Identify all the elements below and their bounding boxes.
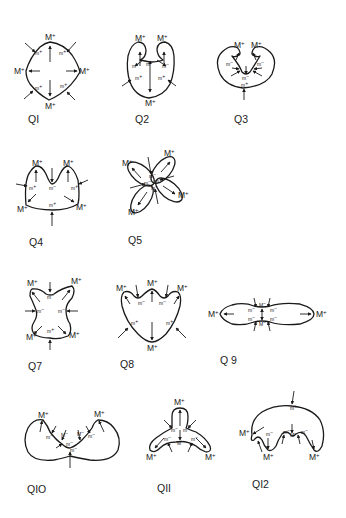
panel-q10: M+ M+ M− M− m− m− m− m− QIO (25, 409, 119, 495)
min-label: m− (266, 429, 273, 437)
max-label: M+ (45, 101, 56, 111)
min-label: m+ (35, 83, 42, 91)
min-label: m− (151, 183, 158, 191)
min-label: m+ (135, 73, 142, 81)
min-label: m− (159, 298, 166, 306)
min-label: m+ (49, 200, 56, 208)
max-label: M+ (208, 309, 219, 319)
min-label: m+ (47, 326, 54, 334)
max-label: M+ (128, 207, 139, 217)
max-label-small: M− (61, 430, 68, 438)
min-label: m+ (59, 48, 66, 56)
panel-q4: M+ M+ M+ M+ m− m+ m+ m+ Q4 (16, 158, 88, 248)
min-label: m+ (35, 48, 42, 56)
min-label: m− (257, 59, 264, 67)
min-label: m− (226, 59, 233, 67)
max-label: M+ (146, 452, 157, 462)
max-label: M+ (94, 409, 105, 419)
max-label: M+ (32, 158, 43, 168)
figure-canvas: M+ M+ M+ M+ m+ m+ m+ m+ QI M+ M+ M+ m− m… (0, 0, 346, 518)
max-label: M+ (26, 332, 37, 342)
min-label: m− (46, 432, 53, 440)
caption-q3: Q3 (234, 113, 248, 125)
min-label: m− (171, 425, 178, 433)
max-label: M+ (309, 452, 320, 462)
caption-q4: Q4 (29, 236, 43, 248)
panel-q11: M+ M+ M+ m− m− m− m− M− QII (146, 397, 216, 494)
min-label: m+ (290, 403, 297, 411)
max-label: M+ (63, 158, 74, 168)
min-label: m− (270, 305, 277, 313)
max-label-small: M− (259, 319, 266, 327)
max-label: M+ (178, 190, 189, 200)
caption-q7: Q7 (28, 360, 42, 372)
min-label: m− (37, 306, 44, 314)
min-label: m+ (71, 183, 78, 191)
max-label: M+ (79, 66, 90, 76)
max-label: M+ (71, 276, 82, 286)
min-label: m+ (60, 81, 67, 89)
min-label: m− (49, 183, 56, 191)
shape-outline (127, 42, 174, 98)
min-label: m− (191, 434, 198, 442)
max-label: M+ (38, 410, 49, 420)
caption-q10: QIO (27, 483, 46, 495)
max-label: M+ (263, 452, 274, 462)
panel-q7: M+ M+ M+ M+ m− m− m− m+ Q7 (25, 276, 82, 372)
min-label: m− (70, 445, 77, 453)
min-label: m+ (241, 80, 248, 88)
max-label: M+ (147, 343, 158, 353)
min-label: m− (164, 434, 171, 442)
max-label: M+ (234, 40, 245, 50)
panel-q5: M+ M+ M+ M+ m− m− m− m− Q5 (122, 148, 189, 246)
min-label: m+ (131, 318, 138, 326)
panel-q2: M+ M+ M+ m− m− m− m+ m+ Q2 (122, 33, 176, 125)
shape-outline (121, 289, 180, 342)
min-label: m− (132, 61, 139, 69)
panel-q8: M+ M+ M+ M+ m− m− m+ m+ Q8 (116, 278, 188, 370)
min-label: m− (248, 314, 255, 322)
max-label: M+ (27, 278, 38, 288)
min-label: m− (248, 305, 255, 313)
min-label: m− (58, 306, 65, 314)
min-label: m+ (29, 183, 36, 191)
max-label: M+ (122, 158, 133, 168)
max-label-small: M− (290, 430, 297, 438)
max-label: M+ (157, 33, 168, 43)
max-label: M+ (76, 202, 87, 212)
caption-q5: Q5 (128, 234, 142, 246)
caption-q2: Q2 (135, 113, 149, 125)
max-label: M+ (251, 40, 262, 50)
max-label: M+ (135, 33, 146, 43)
min-label: m− (138, 298, 145, 306)
max-label: M+ (174, 397, 185, 407)
min-label: m− (183, 425, 190, 433)
caption-q9: Q 9 (220, 354, 237, 366)
max-label: M+ (14, 66, 25, 76)
min-label: m− (66, 439, 73, 447)
max-label: M+ (177, 283, 188, 293)
max-label: M+ (147, 278, 158, 288)
max-label-small: M− (77, 429, 84, 437)
max-label: M+ (17, 204, 28, 214)
panel-q3: M+ M+ m− m− m− m+ Q3 (217, 40, 274, 125)
min-label: m− (270, 314, 277, 322)
max-label: M+ (205, 452, 216, 462)
min-label: m− (146, 59, 153, 67)
caption-q8: Q8 (120, 358, 134, 370)
max-label: M+ (45, 32, 56, 42)
max-label: M+ (316, 309, 327, 319)
max-label: M+ (239, 428, 250, 438)
panel-q9: M+ M+ M− M− m− m− m− m− Q 9 (208, 298, 327, 366)
min-label: m− (162, 61, 169, 69)
min-label: m− (47, 292, 54, 300)
min-label: m− (301, 427, 308, 435)
min-label: m+ (158, 73, 165, 81)
max-label-small: M− (177, 438, 184, 446)
shape-outline (220, 303, 314, 324)
caption-q12: QI2 (252, 478, 269, 490)
max-label: M+ (69, 330, 80, 340)
min-label: m− (88, 431, 95, 439)
panel-q12: M+ M+ M+ m+ m− m− m− M− QI2 (239, 391, 324, 490)
max-label: M+ (164, 148, 175, 158)
